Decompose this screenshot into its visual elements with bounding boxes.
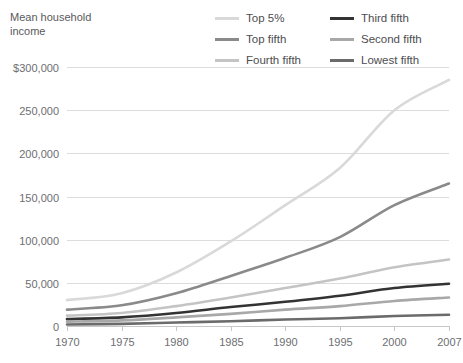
x-tick-label-1985: 1985	[219, 336, 243, 348]
line-chart-svg: 050,000100,000150,000200,000250,000$300,…	[0, 0, 463, 363]
x-tick-label-1975: 1975	[110, 336, 134, 348]
x-axis-ticks: 19701975198019851990199520002007	[55, 326, 461, 348]
y-tick-label-100000: 100,000	[19, 235, 59, 247]
x-tick-label-1995: 1995	[328, 336, 352, 348]
y-tick-label-200000: 200,000	[19, 148, 59, 160]
y-tick-label-300000: $300,000	[13, 62, 59, 74]
y-tick-label-0: 0	[53, 321, 59, 333]
x-tick-label-1980: 1980	[164, 336, 188, 348]
y-axis-ticks: 050,000100,000150,000200,000250,000$300,…	[13, 62, 59, 333]
x-tick-label-1970: 1970	[55, 336, 79, 348]
y-tick-label-50000: 50,000	[25, 278, 59, 290]
series-group	[67, 80, 449, 325]
chart-root: Mean household income Top 5% Third fifth…	[0, 0, 463, 363]
x-tick-label-1990: 1990	[273, 336, 297, 348]
plot-area: 050,000100,000150,000200,000250,000$300,…	[0, 0, 463, 363]
x-tick-label-2000: 2000	[382, 336, 406, 348]
x-tick-label-2007: 2007	[437, 336, 461, 348]
y-tick-label-150000: 150,000	[19, 192, 59, 204]
series-line-top-fifth	[67, 184, 449, 310]
y-tick-label-250000: 250,000	[19, 105, 59, 117]
